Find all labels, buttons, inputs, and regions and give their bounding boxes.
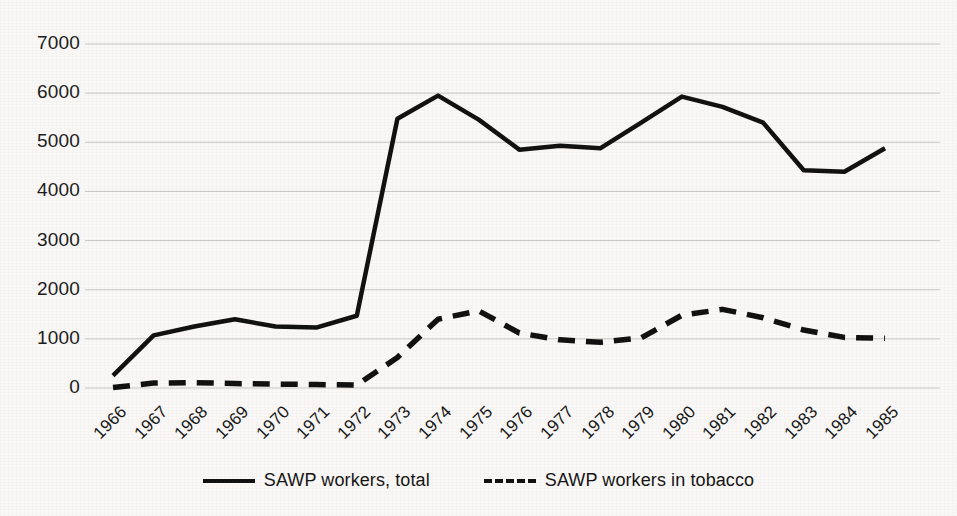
legend-label: SAWP workers, total [264, 470, 430, 491]
gridline-group [85, 44, 940, 388]
y-axis-tick-label: 5000 [8, 130, 80, 152]
chart-container: 70006000500040003000200010000 1966196719… [0, 0, 957, 516]
y-axis-tick-label: 3000 [8, 229, 80, 251]
series-line-1 [113, 96, 885, 376]
y-axis-tick-label: 4000 [8, 179, 80, 201]
legend-swatch-dashed-icon [484, 479, 536, 483]
y-axis-tick-label: 6000 [8, 81, 80, 103]
y-axis-tick-label: 1000 [8, 327, 80, 349]
chart-legend: SAWP workers, totalSAWP workers in tobac… [0, 470, 957, 491]
legend-swatch-solid-icon [203, 479, 255, 483]
legend-entry-1[interactable]: SAWP workers, total [203, 470, 430, 491]
legend-entry-2[interactable]: SAWP workers in tobacco [484, 470, 754, 491]
legend-label: SAWP workers in tobacco [545, 470, 754, 491]
y-axis-tick-label: 7000 [8, 32, 80, 54]
series-group [113, 96, 885, 388]
y-axis-tick-label: 0 [8, 376, 80, 398]
y-axis-tick-label: 2000 [8, 278, 80, 300]
